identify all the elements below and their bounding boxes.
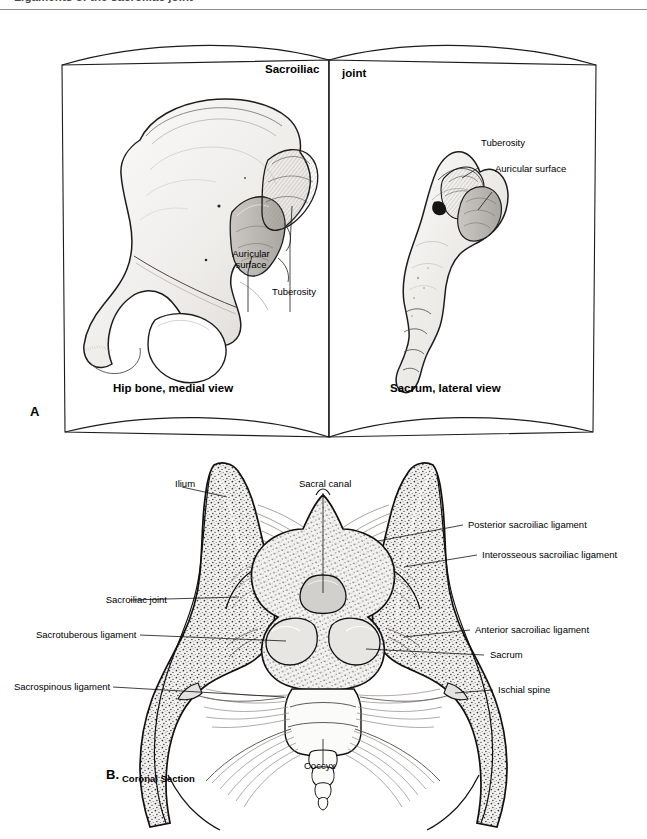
label-sacrum: Sacrum (490, 649, 523, 660)
figure-panel-a: Sacroiliac joint Auricularsurface Tubero… (0, 20, 647, 450)
panel-a-artwork (0, 20, 647, 450)
label-sacrotuberous-ligament: Sacrotuberous ligament (36, 629, 134, 640)
running-head-text: Ligaments of the sacroiliac joint (14, 0, 193, 3)
running-head-rule (0, 9, 647, 10)
panel-b-caption: Coronal Section (122, 773, 195, 784)
panel-a-letter: A (30, 406, 39, 417)
panel-a-title-left: Sacroiliac (265, 64, 319, 75)
label-tuberosity-hip: Tuberosity (272, 286, 316, 297)
label-sacral-canal: Sacral canal (299, 478, 351, 489)
panel-b-letter: B. (106, 769, 119, 780)
label-sacroiliac-joint: Sacroiliac joint (99, 594, 167, 605)
label-auricular-surface-sacrum: Auricular surface (495, 163, 566, 174)
figure-panel-b: Ilium Sacral canal Posterior sacroiliac … (0, 445, 647, 839)
running-head: Ligaments of the sacroiliac joint (0, 0, 647, 12)
label-coccyx: Coccyx (304, 760, 335, 771)
caption-hip-bone: Hip bone, medial view (113, 383, 233, 394)
label-anterior-sacroiliac-ligament: Anterior sacroiliac ligament (475, 624, 589, 635)
label-posterior-sacroiliac-ligament: Posterior sacroiliac ligament (468, 519, 587, 530)
panel-b-artwork (0, 445, 647, 839)
caption-sacrum: Sacrum, lateral view (390, 383, 501, 394)
label-sacrospinous-ligament: Sacrospinous ligament (14, 681, 108, 692)
ilium-right (372, 463, 507, 827)
label-auricular-surface-hip: Auricularsurface (222, 248, 280, 270)
label-ischial-spine: Ischial spine (498, 684, 550, 695)
label-ilium: Ilium (175, 478, 195, 489)
label-tuberosity-sacrum: Tuberosity (481, 137, 525, 148)
label-interosseous-sacroiliac-ligament: Interosseous sacroiliac ligament (482, 549, 617, 560)
panel-a-title-right: joint (342, 68, 366, 79)
